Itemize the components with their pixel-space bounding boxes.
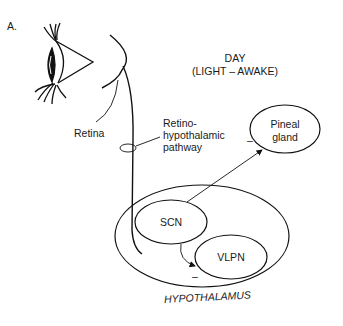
diagram-canvas <box>0 0 343 326</box>
pineal-label-line1: Pineal <box>255 118 315 130</box>
condition-subtitle: (LIGHT – AWAKE) <box>185 65 285 77</box>
retinohypothalamic-nerve <box>123 66 142 254</box>
panel-label: A. <box>7 20 17 32</box>
pineal-label-line2: gland <box>255 131 315 143</box>
scn-label: SCN <box>141 216 201 228</box>
retina-arc <box>102 35 126 88</box>
eye-icon <box>35 23 93 104</box>
scn-to-vlpn-arrow <box>181 244 195 266</box>
pineal-inhibition-sign: – <box>247 134 253 146</box>
pathway-label-line2: hypothalamic <box>163 129 225 141</box>
hypothalamus-ellipse <box>115 185 289 287</box>
pathway-pointer <box>136 137 160 146</box>
vlpn-label: VLPN <box>201 251 261 263</box>
vlpn-inhibition-sign: – <box>192 270 198 282</box>
retina-label: Retina <box>74 127 104 139</box>
pathway-label-line1: Retino- <box>163 117 197 129</box>
condition-title: DAY <box>200 52 270 64</box>
retina-pointer <box>96 80 118 122</box>
pathway-label-line3: pathway <box>163 141 202 153</box>
